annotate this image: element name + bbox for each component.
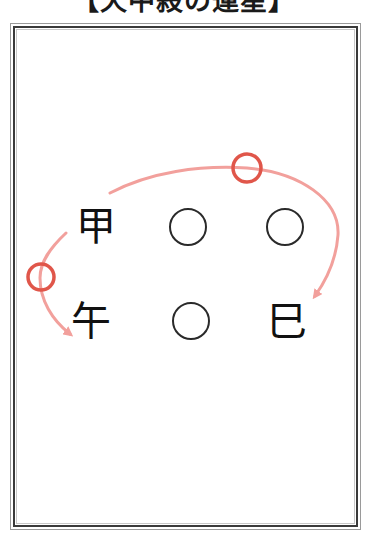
cell-bottom-middle <box>166 296 216 346</box>
char-go: 午 <box>71 301 111 341</box>
empty-circle-icon <box>172 302 210 340</box>
empty-circle-icon <box>169 208 207 246</box>
cell-top-middle <box>163 202 213 252</box>
empty-circle-icon <box>266 208 304 246</box>
char-kou: 甲 <box>76 206 116 246</box>
cell-bottom-left-go: 午 <box>66 296 116 346</box>
cell-top-right <box>260 202 310 252</box>
cell-top-left-kou: 甲 <box>71 201 121 251</box>
frame-inner-light-border <box>16 29 355 524</box>
char-mi: 巳 <box>267 301 307 341</box>
diagram-title: 【天中殺の運星】 <box>0 0 367 16</box>
cell-bottom-right-mi: 巳 <box>262 296 312 346</box>
